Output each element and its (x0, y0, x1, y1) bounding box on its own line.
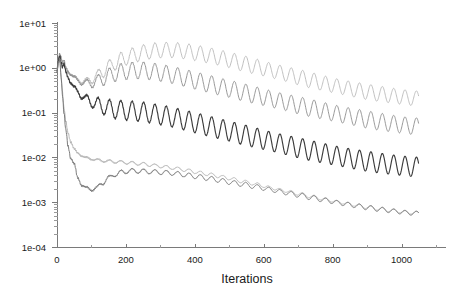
series-line-curve-1 (57, 42, 419, 105)
x-axis-tick-labels: 02004006008001000 (54, 254, 412, 265)
data-series-group (57, 42, 419, 215)
y-axis-tick-labels: 1e+011e+001e-011e-021e-031e-04 (19, 18, 46, 253)
y-tick-label: 1e-02 (22, 152, 46, 163)
y-tick-label: 1e+01 (19, 18, 46, 29)
y-tick-label: 1e+00 (19, 62, 46, 73)
y-tick-label: 1e-04 (22, 242, 46, 253)
x-tick-label: 800 (325, 254, 341, 265)
x-tick-label: 1000 (391, 254, 412, 265)
chart-figure: 1e+011e+001e-011e-021e-031e-04 020040060… (0, 0, 449, 300)
x-tick-label: 600 (256, 254, 272, 265)
x-axis-title: Iterations (221, 272, 272, 286)
axes-group (58, 22, 447, 248)
y-tick-label: 1e-03 (22, 197, 46, 208)
tick-marks-group (52, 24, 437, 249)
x-tick-label: 400 (187, 254, 203, 265)
x-tick-label: 0 (54, 254, 59, 265)
x-tick-label: 200 (118, 254, 134, 265)
series-line-curve-3 (57, 56, 419, 176)
y-tick-label: 1e-01 (22, 107, 46, 118)
convergence-line-chart: 1e+011e+001e-011e-021e-031e-04 020040060… (0, 0, 449, 300)
